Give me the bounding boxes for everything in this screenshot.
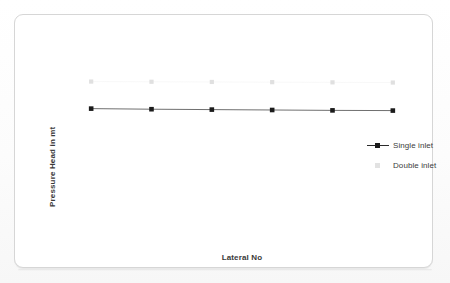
series-double-inlet-line bbox=[91, 82, 393, 83]
chart-legend[interactable]: Single inlet Double inlet bbox=[367, 135, 449, 175]
y-axis-title: Pressure Head in mt bbox=[46, 87, 60, 207]
data-point bbox=[391, 80, 395, 84]
data-point bbox=[210, 80, 214, 84]
data-point bbox=[89, 79, 93, 83]
data-point bbox=[89, 106, 94, 111]
data-point bbox=[149, 80, 153, 84]
chart-card[interactable]: Pressure Head in mt Lateral No Single in… bbox=[14, 14, 433, 268]
legend-item-double-inlet[interactable]: Double inlet bbox=[367, 155, 449, 175]
data-point bbox=[270, 108, 275, 113]
data-point bbox=[210, 107, 215, 112]
legend-marker-double-inlet-icon bbox=[367, 159, 389, 171]
data-point bbox=[330, 108, 335, 113]
screenshot-canvas: Pressure Head in mt Lateral No Single in… bbox=[0, 0, 450, 283]
data-point bbox=[149, 107, 154, 112]
legend-label-single-inlet: Single inlet bbox=[393, 141, 433, 150]
legend-marker-single-inlet-icon bbox=[367, 139, 389, 151]
data-point bbox=[330, 80, 334, 84]
legend-label-double-inlet: Double inlet bbox=[393, 161, 436, 170]
legend-item-single-inlet[interactable]: Single inlet bbox=[367, 135, 449, 155]
data-point bbox=[391, 108, 396, 113]
x-axis-title: Lateral No bbox=[61, 253, 423, 262]
data-point bbox=[270, 80, 274, 84]
series-single-inlet-line bbox=[91, 109, 393, 111]
chart-card-shadow bbox=[18, 269, 432, 271]
